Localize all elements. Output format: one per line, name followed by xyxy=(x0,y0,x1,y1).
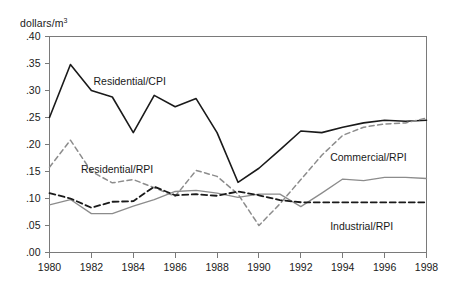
x-tick-label: 1980 xyxy=(38,261,62,273)
series-lines xyxy=(50,65,427,226)
y-tick-label: .05 xyxy=(26,219,41,231)
series-label-commercial-rpi: Commercial/RPI xyxy=(330,151,406,163)
x-tick-label: 1990 xyxy=(247,261,271,273)
x-tick-label: 1998 xyxy=(415,261,439,273)
series-label-residential-cpi: Residential/CPI xyxy=(93,75,165,87)
y-tick-label: .15 xyxy=(26,165,41,177)
chart-container: dollars/m3 .40.35.30.25.20.15.10.05.00 1… xyxy=(0,0,453,301)
x-tick-label: 1988 xyxy=(205,261,229,273)
y-tick-label: .35 xyxy=(26,57,41,69)
line-chart: .40.35.30.25.20.15.10.05.00 198019821984… xyxy=(0,0,453,301)
y-tick-label: .25 xyxy=(26,111,41,123)
series-label-industrial-rpi: Industrial/RPI xyxy=(330,220,393,232)
x-axis-ticks: 1980198219841986198819901992199419961998 xyxy=(38,253,439,273)
x-tick-label: 1984 xyxy=(122,261,146,273)
y-axis-ticks: .40.35.30.25.20.15.10.05.00 xyxy=(26,30,50,258)
y-tick-label: .20 xyxy=(26,138,41,150)
y-tick-label: .00 xyxy=(26,246,41,258)
x-tick-label: 1994 xyxy=(331,261,355,273)
y-tick-label: .30 xyxy=(26,84,41,96)
y-tick-label: .40 xyxy=(26,30,41,42)
series-annotations: Residential/CPIResidential/RPICommercial… xyxy=(81,75,407,232)
y-tick-label: .10 xyxy=(26,192,41,204)
x-tick-label: 1996 xyxy=(373,261,397,273)
series-label-residential-rpi: Residential/RPI xyxy=(81,163,153,175)
x-tick-label: 1982 xyxy=(80,261,104,273)
x-tick-label: 1986 xyxy=(163,261,187,273)
x-tick-label: 1992 xyxy=(289,261,313,273)
